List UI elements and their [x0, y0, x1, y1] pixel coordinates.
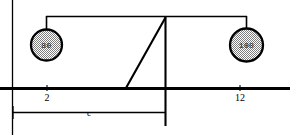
balance-diagram-figure: 80 100 2 12 c	[0, 0, 290, 135]
balance-diagram-canvas: 80 100 2 12 c	[0, 0, 290, 135]
weight-label-right: 100	[239, 41, 255, 50]
weight-label-left: 80	[41, 41, 51, 50]
axis-tick-label-right: 12	[235, 92, 245, 103]
dimension-label-c: c	[87, 108, 91, 118]
axis-tick-label-left: 2	[45, 92, 50, 103]
